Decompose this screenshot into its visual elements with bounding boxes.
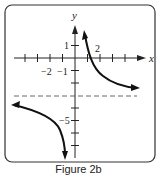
y-axis-label: y xyxy=(71,9,77,21)
graph-figure: x y 2 −2 −1 1 −5 xyxy=(0,0,157,165)
curve-arrow-icon xyxy=(62,151,68,160)
tick-label-y-neg5: −5 xyxy=(59,115,70,126)
curve-arrow-icon xyxy=(11,101,20,108)
figure-caption: Figure 2b xyxy=(0,163,157,175)
tick-label-y-1: 1 xyxy=(64,40,69,51)
x-axis-label: x xyxy=(148,52,154,64)
figure-frame xyxy=(5,5,155,162)
curve-right-branch xyxy=(85,35,137,88)
curve-arrow-icon xyxy=(82,30,88,40)
y-axis-arrow-icon xyxy=(72,25,78,34)
curve-left-branch xyxy=(14,105,65,155)
curve-arrow-icon xyxy=(131,84,140,91)
x-axis-arrow-icon xyxy=(137,55,146,61)
tick-label-x-2: 2 xyxy=(95,43,100,54)
tick-label-x-neg2: −2 xyxy=(41,66,52,77)
tick-label-x-neg1: −1 xyxy=(57,66,68,77)
